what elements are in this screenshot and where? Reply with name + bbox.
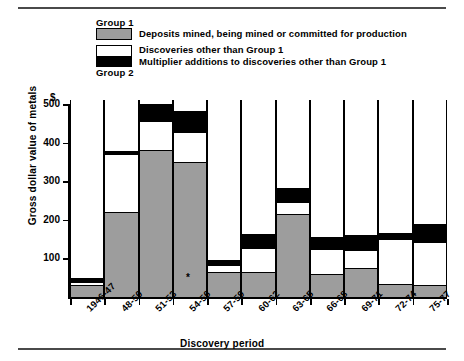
bar-60-62[interactable] (241, 100, 275, 297)
bar-75-77[interactable] (413, 100, 447, 297)
segment-discoveries-other-51-53 (140, 121, 172, 150)
y-tick-label-500: 500 (30, 98, 60, 109)
bar-spacer (345, 100, 377, 235)
segment-multiplier-additions-51-53 (140, 104, 172, 121)
segment-multiplier-additions-69-71 (345, 235, 377, 250)
bar-chart: $ Gross dollar value of metals 100200300… (0, 0, 464, 361)
segment-discoveries-other-60-62 (242, 248, 274, 271)
y-axis-ticks: 100200300400500 (28, 0, 60, 361)
bar-51-53[interactable] (139, 100, 173, 297)
bar-57-59[interactable] (207, 100, 241, 297)
y-tick-mark-400 (63, 143, 69, 145)
bar-spacer (174, 100, 206, 111)
x-axis-title: Discovery period (180, 338, 264, 349)
segment-discoveries-other-63-65 (277, 202, 309, 214)
bar-spacer (277, 100, 309, 188)
y-tick-mark-300 (63, 181, 69, 183)
segment-discoveries-other-69-71 (345, 250, 377, 268)
bar-spacer (242, 100, 274, 234)
bar-spacer (379, 100, 411, 233)
segment-multiplier-additions-66-68 (311, 237, 343, 249)
bar-spacer (208, 100, 240, 260)
segment-discoveries-other-72-74 (379, 239, 411, 284)
bar-spacer (105, 100, 137, 151)
segment-multiplier-additions-75-77 (414, 224, 446, 243)
bar-69-71[interactable] (344, 100, 378, 297)
segment-deposits-mined-51-53 (140, 150, 172, 297)
bar-63-65[interactable] (276, 100, 310, 297)
segment-discoveries-other-48-50 (105, 154, 137, 212)
y-tick-label-200: 200 (30, 214, 60, 225)
segment-discoveries-other-66-68 (311, 249, 343, 274)
x-tick-mark-origin (70, 299, 72, 305)
segment-multiplier-additions-63-65 (277, 188, 309, 202)
bar-spacer (414, 100, 446, 224)
bar-spacer (71, 100, 103, 278)
segment-deposits-mined-63-65 (277, 214, 309, 297)
bar-48-50[interactable] (104, 100, 138, 297)
segment-multiplier-additions-54-56 (174, 111, 206, 131)
segment-multiplier-additions-60-62 (242, 234, 274, 248)
y-tick-label-400: 400 (30, 137, 60, 148)
segment-discoveries-other-54-56 (174, 132, 206, 162)
y-tick-mark-500 (63, 104, 69, 106)
y-tick-label-100: 100 (30, 252, 60, 263)
y-tick-mark-200 (63, 220, 69, 222)
bar-series-container (70, 100, 447, 297)
y-tick-label-300: 300 (30, 175, 60, 186)
asterisk-annotation: * (186, 272, 190, 283)
y-tick-mark-100 (63, 258, 69, 260)
bar-spacer (311, 100, 343, 237)
segment-discoveries-other-75-77 (414, 242, 446, 284)
bar-1946-47[interactable] (70, 100, 104, 297)
bar-72-74[interactable] (378, 100, 412, 297)
bar-66-68[interactable] (310, 100, 344, 297)
bar-54-56[interactable] (173, 100, 207, 297)
